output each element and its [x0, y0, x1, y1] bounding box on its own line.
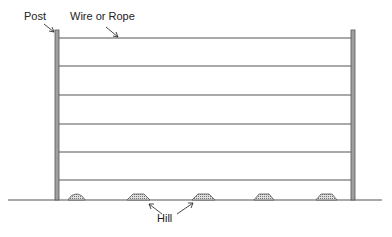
- hill-1: [68, 194, 85, 200]
- hill-3: [192, 194, 215, 200]
- hill-4: [254, 194, 274, 200]
- hill-label: Hill: [157, 212, 172, 224]
- hill-5: [316, 194, 337, 200]
- hills: [68, 194, 337, 200]
- arrows: [44, 24, 193, 214]
- right-post: [351, 30, 355, 200]
- wire-arrow-icon: [106, 27, 118, 37]
- hill-arrow-right-icon: [177, 203, 193, 214]
- fence-diagram: [0, 0, 392, 237]
- left-post: [55, 30, 59, 200]
- wires: [57, 38, 353, 180]
- post-label: Post: [24, 10, 46, 22]
- post-arrow-icon: [44, 24, 54, 32]
- hill-2: [127, 194, 150, 200]
- wire-label: Wire or Rope: [70, 10, 135, 22]
